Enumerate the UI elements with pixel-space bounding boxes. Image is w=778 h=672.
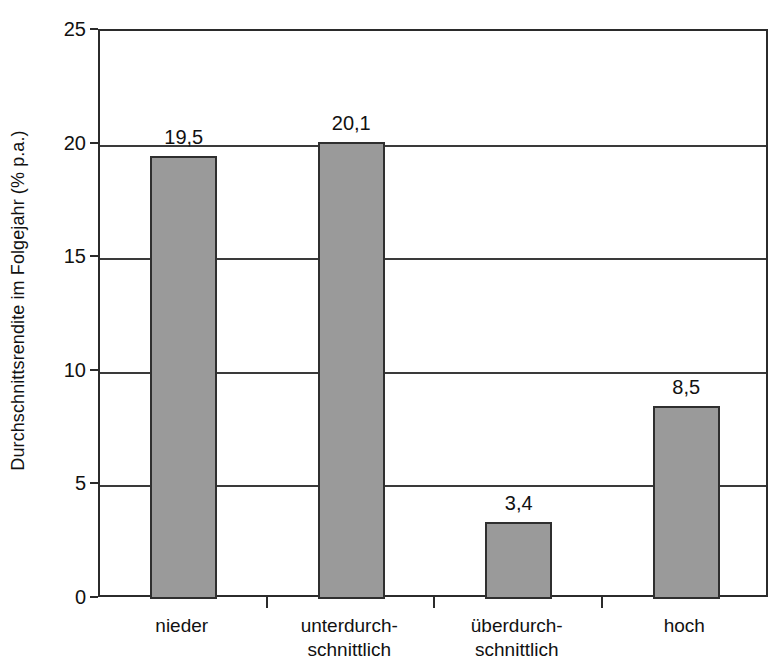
chart-figure: Durchschnittsrendite im Folgejahr (% p.a… (0, 0, 778, 672)
y-axis-title-text: Durchschnittsrendite im Folgejahr (% p.a… (8, 130, 29, 470)
y-tick-mark (90, 596, 98, 598)
plot-area: 19,520,13,48,5 (98, 29, 768, 597)
x-tick-mark (601, 597, 603, 608)
bar-value-label: 3,4 (505, 492, 533, 515)
x-axis-label: unterdurch-schnittlich (301, 614, 398, 663)
y-tick-label: 0 (38, 586, 86, 609)
y-tick-mark (90, 142, 98, 144)
bar[interactable] (653, 406, 720, 599)
x-tick-mark (433, 597, 435, 608)
y-tick-mark (90, 482, 98, 484)
bar-value-label: 8,5 (672, 376, 700, 399)
x-tick-mark (266, 597, 268, 608)
y-tick-label: 15 (38, 245, 86, 268)
y-tick-label: 20 (38, 131, 86, 154)
x-axis-label-line: hoch (664, 614, 705, 638)
bar[interactable] (485, 522, 552, 599)
y-tick-label: 10 (38, 358, 86, 381)
bar[interactable] (318, 142, 385, 599)
x-axis-label-line: nieder (155, 614, 208, 638)
bar-value-label: 20,1 (332, 112, 371, 135)
x-axis-label-line: schnittlich (301, 638, 398, 662)
x-axis-label-line: schnittlich (471, 638, 563, 662)
x-axis-label-line: überdurch- (471, 614, 563, 638)
y-axis-title: Durchschnittsrendite im Folgejahr (% p.a… (0, 0, 36, 600)
y-tick-label: 5 (38, 472, 86, 495)
y-tick-label: 25 (38, 18, 86, 41)
y-tick-mark (90, 255, 98, 257)
x-axis-label-line: unterdurch- (301, 614, 398, 638)
x-axis-label: hoch (664, 614, 705, 638)
x-axis-label: nieder (155, 614, 208, 638)
bar-value-label: 19,5 (164, 126, 203, 149)
bar[interactable] (150, 156, 217, 599)
y-tick-mark (90, 28, 98, 30)
y-tick-mark (90, 369, 98, 371)
x-axis-label: überdurch-schnittlich (471, 614, 563, 663)
